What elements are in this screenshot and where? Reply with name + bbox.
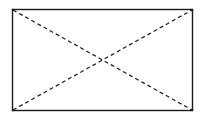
corner-dot-bl — [12, 109, 15, 112]
rectangle-diagram — [0, 0, 201, 115]
corner-dot-tr — [191, 9, 194, 12]
corner-dot-tl — [12, 9, 15, 12]
corner-dot-br — [191, 109, 194, 112]
